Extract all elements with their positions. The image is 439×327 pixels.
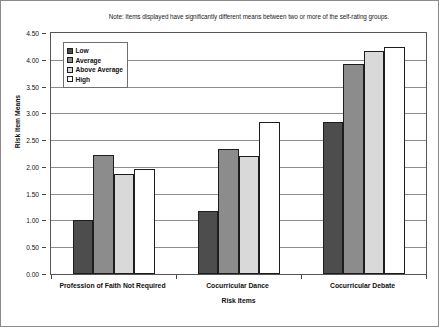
y-axis-tick-label: 1.50 <box>26 190 39 197</box>
y-axis-tick-label: 4.00 <box>26 56 39 63</box>
bar <box>259 122 280 274</box>
x-axis-category-label: Cocurricular Debate <box>330 282 395 289</box>
legend-item: High <box>67 75 123 85</box>
legend-label: Average <box>76 57 102 64</box>
legend-label: High <box>76 76 91 83</box>
y-axis-tick-label: 2.50 <box>26 137 39 144</box>
y-axis-tick-label: 2.00 <box>26 163 39 170</box>
y-axis-tick-mark <box>42 167 46 168</box>
legend-label: Low <box>76 47 89 54</box>
x-axis-tick-mark <box>426 275 427 279</box>
chart-figure: Note: Items displayed have significantly… <box>0 0 439 327</box>
y-axis-tick-mark <box>42 33 46 34</box>
x-axis: Profession of Faith Not RequiredCocurric… <box>50 275 427 297</box>
bar <box>218 149 239 274</box>
y-axis-title: Risk Item Means <box>14 62 21 182</box>
x-axis-category-label: Profession of Faith Not Required <box>59 282 165 289</box>
x-axis-tick-mark <box>301 275 302 279</box>
bar-group <box>198 33 280 274</box>
bar <box>364 51 385 274</box>
bar-group <box>323 33 405 274</box>
legend-swatch <box>67 76 73 82</box>
y-axis-tick-label: 0.00 <box>26 271 39 278</box>
legend-swatch <box>67 48 73 54</box>
x-axis-tick-mark <box>176 275 177 279</box>
legend-item: Average <box>67 56 123 66</box>
y-axis-tick-mark <box>42 274 46 275</box>
bar <box>134 169 155 275</box>
y-axis-tick-mark <box>42 140 46 141</box>
bar <box>323 122 344 274</box>
bar <box>343 64 364 274</box>
y-axis-tick-label: 0.50 <box>26 244 39 251</box>
x-axis-tick-mark <box>51 275 52 279</box>
legend-item: Low <box>67 46 123 56</box>
bar <box>198 211 219 274</box>
legend-label: Above Average <box>76 66 124 73</box>
legend-item: Above Average <box>67 65 123 75</box>
y-axis-tick-mark <box>42 194 46 195</box>
y-axis-tick-mark <box>42 113 46 114</box>
bar <box>114 174 135 274</box>
y-axis-tick-label: 1.00 <box>26 217 39 224</box>
y-axis-tick-mark <box>42 87 46 88</box>
y-axis-tick-label: 3.00 <box>26 110 39 117</box>
bar <box>93 155 114 274</box>
x-axis-category-label: Cocurricular Dance <box>206 282 269 289</box>
y-axis-tick-mark <box>42 60 46 61</box>
bar <box>384 47 405 274</box>
x-axis-title: Risk Items <box>50 297 427 304</box>
bar <box>239 156 260 274</box>
chart-note: Note: Items displayed have significantly… <box>63 13 435 20</box>
y-axis: 0.000.501.001.502.002.503.003.504.004.50 <box>1 32 46 275</box>
bar <box>73 220 94 274</box>
y-axis-tick-mark <box>42 247 46 248</box>
y-axis-tick-label: 4.50 <box>26 30 39 37</box>
chart-legend: LowAverageAbove AverageHigh <box>63 42 128 88</box>
y-axis-tick-label: 3.50 <box>26 83 39 90</box>
y-axis-tick-mark <box>42 220 46 221</box>
legend-swatch <box>67 67 73 73</box>
legend-swatch <box>67 57 73 63</box>
